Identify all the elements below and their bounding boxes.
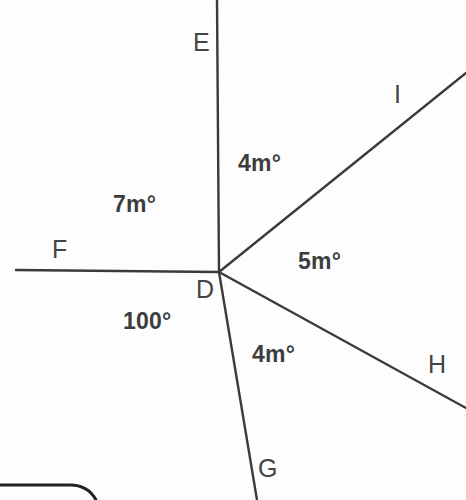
answer-box-outline [0, 485, 96, 500]
point-label-E: E [193, 30, 210, 55]
angle-label-GDF: 100° [123, 310, 171, 333]
point-label-D: D [196, 277, 214, 302]
angle-label-IDH: 5m° [298, 250, 341, 273]
diagram-canvas: E I H G F D 7m° 4m° 5m° 4m° 100° [0, 0, 466, 500]
point-label-F: F [52, 237, 67, 262]
rays-group [16, 0, 466, 500]
angle-label-HDG: 4m° [252, 343, 295, 366]
ray-DH [219, 272, 466, 408]
ray-DE [217, 0, 219, 272]
angle-label-EDI: 4m° [238, 152, 281, 175]
point-label-I: I [394, 82, 401, 107]
angle-diagram-svg [0, 0, 466, 500]
point-label-G: G [258, 456, 277, 481]
ray-DG [219, 272, 257, 500]
angle-label-FDE: 7m° [113, 193, 156, 216]
ray-DF [16, 270, 219, 272]
point-label-H: H [428, 352, 446, 377]
